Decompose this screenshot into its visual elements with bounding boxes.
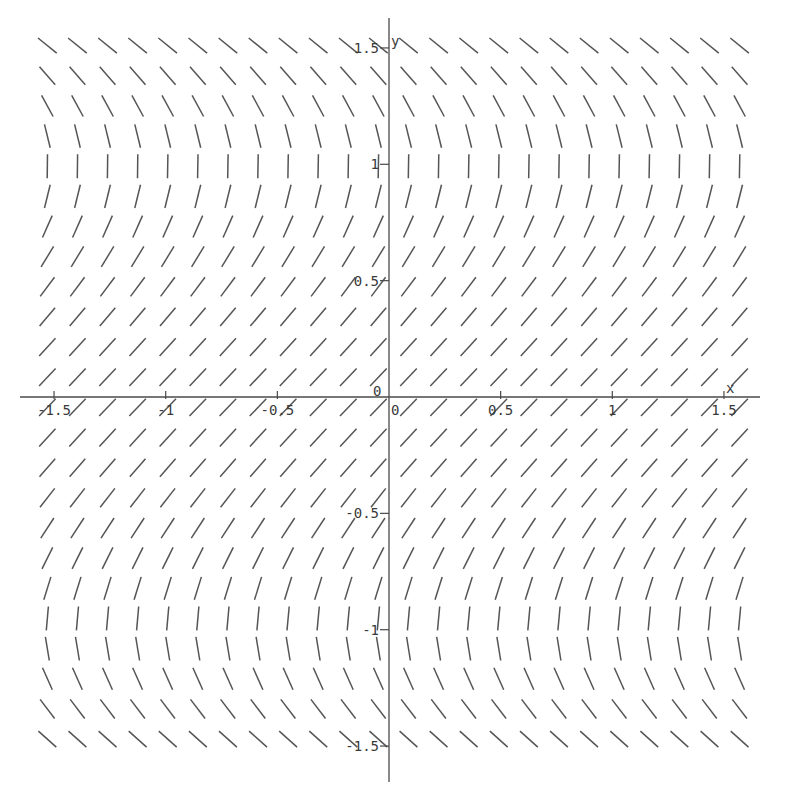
slope-segment — [38, 731, 56, 747]
slope-segment — [552, 699, 567, 718]
slope-segment — [584, 216, 594, 238]
slope-segment — [644, 547, 655, 569]
slope-segment — [158, 38, 177, 53]
slope-segment — [496, 124, 502, 147]
slope-segment — [107, 607, 109, 631]
slope-segment — [46, 607, 48, 631]
slope-segment — [220, 369, 237, 386]
slope-segment — [675, 216, 685, 238]
slope-segment — [429, 38, 448, 53]
slope-segment — [644, 95, 655, 116]
slope-segment — [250, 308, 265, 326]
slope-segment — [641, 67, 657, 85]
slope-segment — [702, 277, 716, 296]
slope-segment — [133, 668, 143, 690]
slope-segment — [492, 518, 505, 538]
slope-segment — [466, 185, 472, 208]
y-tick-label: 1.5 — [354, 40, 379, 56]
slope-segment — [461, 459, 477, 477]
slope-segment — [99, 429, 115, 447]
slope-segment — [162, 95, 174, 116]
slope-segment — [341, 308, 357, 326]
slope-segment — [730, 38, 749, 53]
slope-segment — [100, 308, 116, 326]
slope-segment — [642, 699, 657, 718]
slope-segment — [345, 577, 352, 600]
slope-segment — [310, 399, 327, 416]
slope-segment — [197, 607, 199, 631]
slope-segment — [675, 668, 685, 690]
slope-segment — [702, 459, 718, 477]
slope-segment — [438, 607, 440, 631]
slope-segment — [69, 338, 85, 356]
slope-segment — [76, 607, 78, 631]
slope-segment — [70, 459, 86, 477]
slope-segment — [702, 308, 718, 326]
slope-segment — [464, 668, 474, 690]
slope-segment — [524, 668, 534, 690]
slope-segment — [551, 67, 567, 85]
slope-segment — [100, 459, 116, 477]
slope-segment — [250, 338, 266, 356]
slope-segment — [129, 731, 147, 747]
slope-segment — [461, 488, 476, 507]
slope-segment — [165, 185, 171, 208]
slope-segment — [374, 216, 384, 238]
slope-segment — [434, 216, 444, 238]
slope-segment — [251, 277, 265, 296]
slope-segment — [42, 547, 53, 569]
x-ticks: -1.5-1-0.500.511.5 — [37, 383, 736, 418]
slope-segment — [190, 399, 207, 416]
slope-segment — [588, 607, 590, 631]
slope-segment — [129, 369, 146, 386]
slope-segment — [497, 637, 501, 661]
x-tick-label: -0.5 — [260, 402, 294, 418]
slope-segment — [647, 637, 651, 661]
slope-segment — [586, 185, 592, 208]
slope-segment — [554, 216, 564, 238]
slope-segment — [498, 607, 500, 631]
slope-segment — [282, 246, 295, 267]
slope-segment — [401, 277, 415, 296]
slope-segment — [72, 95, 84, 116]
slope-segment — [401, 459, 417, 477]
slope-segment — [250, 67, 266, 85]
slope-segment — [163, 216, 173, 238]
slope-segment — [430, 369, 447, 386]
slope-segment — [430, 731, 448, 747]
slope-segment — [39, 429, 55, 447]
slope-segment — [496, 185, 502, 208]
slope-segment — [525, 577, 532, 600]
slope-segment — [224, 577, 231, 600]
slope-segment — [375, 577, 382, 600]
slope-segment — [523, 95, 534, 116]
slope-segment — [161, 699, 176, 718]
slope-segment — [405, 577, 412, 600]
slope-segment — [612, 277, 626, 296]
slope-segment — [164, 577, 171, 600]
slope-segment — [130, 459, 146, 477]
slope-segment — [460, 399, 477, 416]
slope-segment — [674, 547, 685, 569]
slope-segment — [402, 518, 415, 538]
slope-segment — [705, 668, 715, 690]
slope-segment — [580, 38, 599, 53]
slope-segment — [39, 338, 55, 356]
slope-segment — [492, 277, 506, 296]
slope-segment — [431, 67, 447, 85]
slope-segment — [521, 369, 538, 386]
slope-segment — [69, 369, 86, 386]
slope-segment — [704, 547, 715, 569]
slope-segment — [99, 369, 116, 386]
slope-segment — [491, 308, 507, 326]
slope-segment — [256, 637, 260, 661]
slope-segment — [311, 277, 325, 296]
slope-segment — [283, 668, 293, 690]
slope-segment — [610, 731, 628, 747]
slope-segment — [340, 459, 356, 477]
slope-segment — [310, 459, 326, 477]
slope-segment — [461, 699, 476, 718]
slope-segment — [671, 338, 687, 356]
slope-segment — [580, 731, 598, 747]
slope-segment — [75, 185, 81, 208]
